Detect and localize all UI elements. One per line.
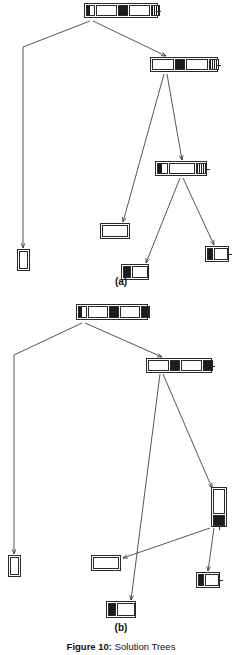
node-segment-ring xyxy=(10,557,19,575)
edge-root-to-leaf-far-left xyxy=(23,21,90,248)
solution-tree-a-panel: (a) xyxy=(0,0,242,300)
node-segment-half xyxy=(78,306,87,318)
node-segment-ring xyxy=(213,489,225,514)
tree-node-level2 xyxy=(155,161,207,176)
node-segment-ring xyxy=(152,59,174,70)
edge-level2-to-leaf-right-arrowhead-icon xyxy=(210,240,214,245)
node-segment-fill xyxy=(109,306,118,318)
edge-level1-to-leaf-bottom-arrowhead-icon xyxy=(130,595,134,600)
node-segment-ring xyxy=(205,574,219,586)
tree-leaf-far-left xyxy=(17,249,30,271)
tree-b-edge-layer xyxy=(0,300,242,640)
edge-level1-to-leaf-bottom xyxy=(131,374,160,600)
edge-level2-to-leaf-right xyxy=(183,178,214,245)
edge-level2-to-leaf-middle-arrowhead-icon xyxy=(123,555,128,559)
figure-caption-label: Figure 10: xyxy=(67,641,112,652)
figure-caption-text: Solution Trees xyxy=(112,641,175,652)
node-pin-icon xyxy=(157,11,161,12)
node-segment-fill xyxy=(198,574,204,586)
node-segment-fill xyxy=(213,515,225,526)
node-segment-ring xyxy=(88,306,108,318)
node-pin-icon xyxy=(217,65,221,66)
tree-node-level1-right xyxy=(146,358,212,373)
edge-level2-to-leaf-bottom xyxy=(146,178,180,263)
tree-node-level2-vert xyxy=(211,487,227,527)
panel-label-a: (a) xyxy=(0,276,242,287)
tree-leaf-right xyxy=(205,246,229,262)
solution-tree-b-panel: (b) xyxy=(0,300,242,640)
node-segment-ring xyxy=(129,5,150,16)
edge-level2-to-leaf-bottom-arrowhead-icon xyxy=(146,258,149,263)
edge-root-to-leaf-far-left-arrowhead-icon xyxy=(21,243,25,248)
edge-level1-to-level2-arrowhead-icon xyxy=(179,155,183,160)
figure-solution-trees: (a) (b) Figure 10: Solution Trees xyxy=(0,0,242,655)
node-segment-ring xyxy=(93,557,119,569)
tree-leaf-bottom xyxy=(106,601,136,618)
tree-leaf-middle xyxy=(91,555,121,571)
tree-node-root xyxy=(84,3,158,18)
node-segment-ring xyxy=(19,251,28,269)
node-segment-half xyxy=(86,5,95,16)
node-segment-ring xyxy=(117,603,135,616)
node-segment-fill xyxy=(141,306,150,318)
edge-level2-to-leaf-middle xyxy=(123,528,210,558)
node-pin-icon xyxy=(206,169,210,170)
node-segment-ring xyxy=(102,225,128,237)
node-segment-fill xyxy=(118,5,127,16)
edge-level2-to-leaf-right-arrowhead-icon xyxy=(207,566,211,571)
node-segment-ring xyxy=(148,360,169,371)
node-segment-ring xyxy=(214,248,228,260)
edge-root-to-level1-right xyxy=(93,21,166,56)
edge-root-to-level1-right-arrowhead-icon xyxy=(157,353,162,357)
edge-level1-to-leaf-middle xyxy=(123,74,164,222)
node-pin-icon xyxy=(228,254,232,255)
node-segment-ring xyxy=(186,59,208,70)
tree-leaf-far-left xyxy=(8,555,21,577)
node-segment-fill xyxy=(175,59,185,70)
tree-leaf-middle xyxy=(100,223,130,239)
node-segment-fill xyxy=(207,248,213,260)
tree-node-root xyxy=(76,304,148,320)
figure-caption: Figure 10: Solution Trees xyxy=(0,641,242,652)
node-pin-icon xyxy=(219,526,220,530)
edge-root-to-leaf-far-left xyxy=(14,323,82,554)
edge-level2-to-leaf-right xyxy=(208,528,214,571)
tree-node-level1-right xyxy=(150,57,218,72)
node-pin-icon xyxy=(219,580,223,581)
node-segment-ring xyxy=(169,163,194,174)
node-segment-fill xyxy=(170,360,180,371)
node-segment-ring xyxy=(120,306,140,318)
node-segment-ring xyxy=(181,360,202,371)
edge-root-to-level1-right-arrowhead-icon xyxy=(161,52,166,56)
node-pin-icon xyxy=(211,366,215,367)
node-segment-fill xyxy=(108,603,116,616)
node-segment-half xyxy=(157,163,168,174)
edge-root-to-level1-right xyxy=(85,323,162,357)
edge-level1-to-leaf-middle-arrowhead-icon xyxy=(122,217,126,222)
tree-leaf-right xyxy=(196,572,220,588)
node-segment-ring xyxy=(96,5,117,16)
panel-label-b: (b) xyxy=(0,622,242,633)
edge-level1-to-level2-vert xyxy=(163,374,212,488)
edge-root-to-leaf-far-left-arrowhead-icon xyxy=(12,549,16,554)
edge-level1-to-level2 xyxy=(167,74,182,160)
